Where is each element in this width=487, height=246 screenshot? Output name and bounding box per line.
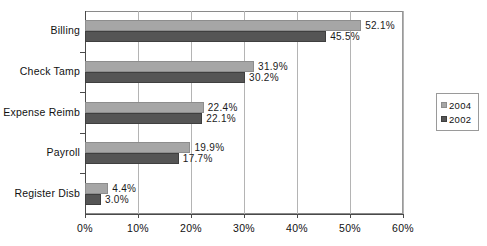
- y-axis-category-label: Expense Reimb: [2, 106, 80, 118]
- bar-2002-register-disb: [85, 194, 101, 205]
- y-axis-category-label: Payroll: [2, 146, 80, 158]
- legend-item-label: 2002: [449, 114, 471, 125]
- bar-2004-check-tamp: [85, 61, 254, 72]
- y-axis-tick: [80, 52, 85, 53]
- y-axis-tick: [80, 92, 85, 93]
- legend-swatch-icon: [441, 116, 447, 122]
- y-axis-category-label: Billing: [2, 24, 80, 36]
- bar-2004-register-disb: [85, 183, 108, 194]
- bar-2002-check-tamp: [85, 72, 245, 83]
- bar-value-label: 45.5%: [330, 31, 360, 42]
- legend-item: 2004: [441, 98, 475, 112]
- bar-value-label: 17.7%: [183, 153, 213, 164]
- x-axis-tick: [138, 214, 139, 218]
- chart-legend: 2004 2002: [436, 93, 479, 131]
- bar-value-label: 30.2%: [249, 72, 279, 83]
- legend-item: 2002: [441, 112, 475, 126]
- gridline: [403, 11, 404, 214]
- bar-2004-billing: [85, 20, 361, 31]
- y-axis-tick: [80, 133, 85, 134]
- bar-2002-expense-reimb: [85, 113, 202, 124]
- y-axis-category-labels: BillingCheck TampExpense ReimbPayrollReg…: [0, 0, 80, 246]
- bar-2004-payroll: [85, 142, 190, 153]
- x-axis-tick: [297, 214, 298, 218]
- x-axis-tick-label: 60%: [392, 222, 414, 234]
- x-axis-tick: [403, 214, 404, 218]
- bar-value-label: 3.0%: [105, 194, 129, 205]
- bar-2004-expense-reimb: [85, 102, 204, 113]
- x-axis-tick-label: 40%: [286, 222, 308, 234]
- legend-swatch-icon: [441, 102, 447, 108]
- bar-value-label: 22.4%: [208, 102, 238, 113]
- bar-2002-payroll: [85, 153, 179, 164]
- x-axis-tick: [244, 214, 245, 218]
- x-axis-tick: [350, 214, 351, 218]
- y-axis-tick: [80, 173, 85, 174]
- x-axis-tick-label: 50%: [339, 222, 361, 234]
- x-axis-tick: [85, 214, 86, 218]
- bar-2002-billing: [85, 31, 326, 42]
- bar-value-label: 19.9%: [194, 142, 224, 153]
- bar-value-label: 22.1%: [206, 113, 236, 124]
- bar-value-label: 52.1%: [365, 20, 395, 31]
- x-axis-tick-label: 0%: [77, 222, 93, 234]
- x-axis-tick-label: 30%: [233, 222, 255, 234]
- legend-item-label: 2004: [449, 100, 471, 111]
- y-axis-category-label: Register Disb: [2, 187, 80, 199]
- x-axis-tick: [191, 214, 192, 218]
- bar-value-label: 4.4%: [112, 183, 136, 194]
- y-axis-category-label: Check Tamp: [2, 65, 80, 77]
- x-axis-tick-label: 20%: [180, 222, 202, 234]
- x-axis-tick-label: 10%: [127, 222, 149, 234]
- bar-value-label: 31.9%: [258, 61, 288, 72]
- bar-chart-screenshot: BillingCheck TampExpense ReimbPayrollReg…: [0, 0, 487, 246]
